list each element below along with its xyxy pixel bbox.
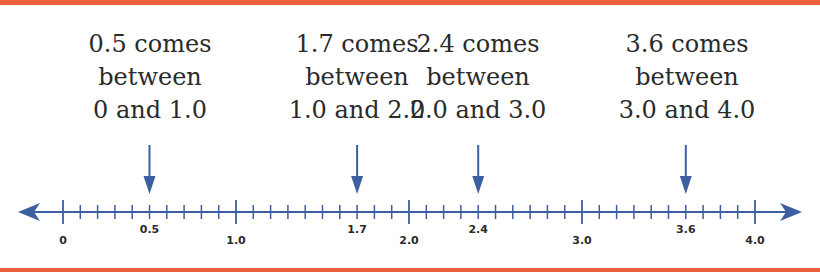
bottom-border <box>0 268 820 272</box>
tick-label: 1.0 <box>226 234 246 247</box>
tick-label: 2.0 <box>399 234 419 247</box>
down-arrow-icon <box>472 145 484 194</box>
down-arrow-icon <box>351 145 363 194</box>
tick-label: 2.4 <box>468 223 488 236</box>
tick-label: 1.7 <box>347 223 367 236</box>
tick-label: 3.6 <box>676 223 696 236</box>
pointer-arrows <box>144 145 692 194</box>
tick-label: 0 <box>59 234 67 247</box>
tick-labels: 00.51.01.72.02.43.03.64.0 <box>59 223 765 247</box>
down-arrow-icon <box>144 145 156 194</box>
tick-label: 3.0 <box>572 234 592 247</box>
tick-label: 4.0 <box>745 234 765 247</box>
number-line: 00.51.01.72.02.43.03.64.0 <box>0 0 820 272</box>
down-arrow-icon <box>680 145 692 194</box>
ticks <box>63 200 755 224</box>
tick-label: 0.5 <box>140 223 160 236</box>
